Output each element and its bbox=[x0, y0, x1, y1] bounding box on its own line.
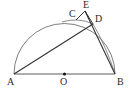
vertex-label-O: O bbox=[60, 77, 67, 87]
segment-AD bbox=[14, 24, 93, 74]
vertex-label-D: D bbox=[95, 14, 102, 24]
arc-semicircle-AB bbox=[14, 24, 115, 74]
geometry-figure: A B O C D E bbox=[0, 0, 130, 96]
vertex-label-E: E bbox=[83, 0, 89, 10]
vertex-label-C: C bbox=[69, 9, 76, 19]
segment-CE bbox=[76, 11, 85, 20]
vertex-label-A: A bbox=[7, 77, 14, 87]
vertex-label-B: B bbox=[117, 77, 124, 87]
